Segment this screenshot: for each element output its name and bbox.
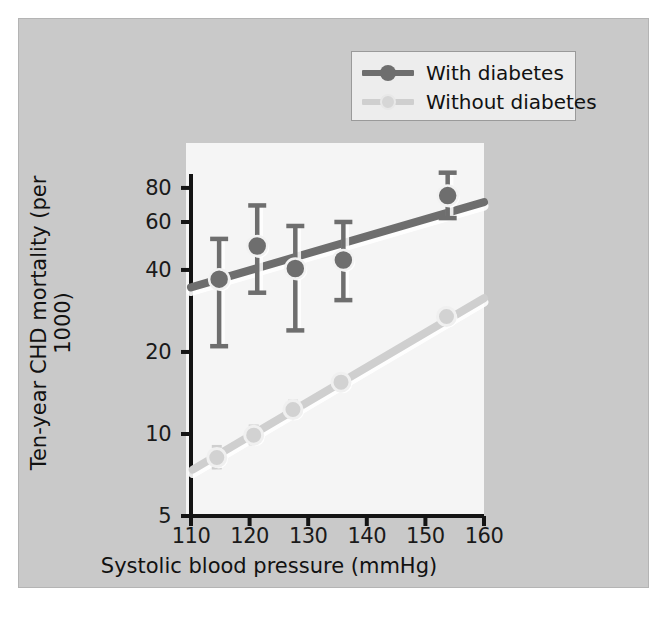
y-tick-label: 20 (131, 340, 171, 364)
y-axis-ticks: 51020406080 (111, 19, 171, 589)
x-tick-label: 150 (395, 524, 455, 548)
legend-item-with-diabetes: With diabetes (362, 58, 565, 87)
x-tick-label: 160 (454, 524, 514, 548)
x-axis-label: Systolic blood pressure (mmHg) (19, 554, 519, 578)
legend-item-without-diabetes: Without diabetes (362, 87, 565, 116)
plot-area (186, 143, 484, 518)
chart-legend: With diabetes Without diabetes (351, 51, 576, 121)
x-tick-label: 110 (161, 524, 221, 548)
legend-label-without-diabetes: Without diabetes (426, 90, 597, 114)
x-axis-ticks: 110120130140150160 (19, 524, 650, 554)
y-tick-label: 60 (131, 210, 171, 234)
y-axis-label: Ten-year CHD mortality (per 1000) (27, 173, 75, 473)
legend-key-with-diabetes (362, 64, 414, 82)
y-tick-label: 10 (131, 422, 171, 446)
legend-label-with-diabetes: With diabetes (426, 61, 564, 85)
x-tick-label: 140 (337, 524, 397, 548)
y-tick-label: 40 (131, 258, 171, 282)
x-tick-label: 120 (220, 524, 280, 548)
legend-key-without-diabetes (362, 93, 414, 111)
x-tick-label: 130 (278, 524, 338, 548)
y-tick-label: 80 (131, 176, 171, 200)
figure-panel: 51020406080 110120130140150160 Systolic … (18, 18, 649, 588)
